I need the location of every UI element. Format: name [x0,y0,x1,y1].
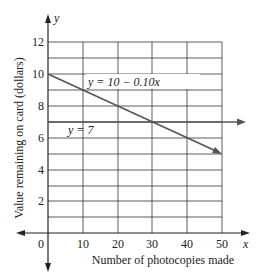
line1-label: y = 10 − 0.10x [87,75,161,89]
svg-text:10: 10 [32,67,44,81]
svg-text:10: 10 [77,237,89,251]
svg-text:20: 20 [112,237,124,251]
svg-text:40: 40 [181,237,193,251]
svg-text:6: 6 [38,131,44,145]
x-axis-title: Number of photocopies made [92,253,234,267]
y-var-label: y [53,11,60,25]
svg-text:0: 0 [38,237,44,251]
grid [48,42,222,233]
x-var-label: x [242,237,249,251]
line1-arrow-icon [212,147,222,154]
svg-text:4: 4 [38,163,44,177]
chart: 12 10 8 6 4 2 0 10 20 30 40 50 y x Numbe… [0,0,261,280]
svg-text:2: 2 [38,194,44,208]
y-axis-title: Value remaining on card (dollars) [12,57,26,218]
x-tick-labels: 0 10 20 30 40 50 [38,237,228,251]
axes [16,14,250,272]
line2-label: y = 7 [67,123,94,137]
svg-text:30: 30 [146,237,158,251]
svg-text:8: 8 [38,99,44,113]
svg-text:50: 50 [216,237,228,251]
line2-arrow-icon [237,119,246,126]
svg-text:12: 12 [32,35,44,49]
y-axis-down-arrow-icon [45,263,51,272]
x-axis-arrow-icon [241,230,250,236]
x-axis-left-arrow-icon [16,230,25,236]
y-axis-arrow-icon [45,14,51,23]
y-tick-labels: 12 10 8 6 4 2 [32,35,44,208]
